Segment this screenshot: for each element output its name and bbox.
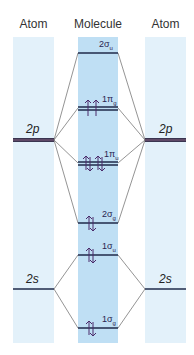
mo-diagram — [0, 0, 194, 355]
mo-label-1sigma-u: 1σu — [102, 241, 116, 253]
left-2s-label: 2s — [26, 272, 39, 286]
mo-label-1sigma-g: 1σg — [102, 314, 116, 326]
right-2p-label: 2p — [159, 122, 172, 136]
atomic-level-lines — [13, 138, 186, 289]
connector-lines — [54, 53, 145, 328]
mo-label-1pi-u: 1πu — [104, 149, 119, 161]
mo-label-1pi-g: 1πg — [102, 94, 117, 106]
left-2p-label: 2p — [26, 122, 39, 136]
mo-label-2sigma-u: 2σu — [99, 39, 113, 51]
right-2s-label: 2s — [159, 272, 172, 286]
mo-label-2sigma-g: 2σg — [102, 209, 116, 221]
